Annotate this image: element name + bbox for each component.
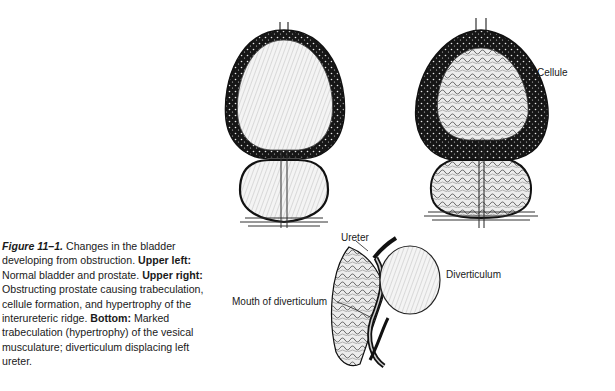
label-diverticulum: Diverticulum	[446, 269, 501, 280]
obstructed-bladder-illustration	[416, 18, 548, 228]
caption-text-upper-left: Normal bladder and prostate.	[2, 269, 139, 281]
caption-heading-upper-left: Upper left:	[138, 254, 191, 266]
figure-caption: Figure 11–1. Changes in the bladder deve…	[2, 239, 217, 369]
diverticulum-illustration	[332, 238, 440, 366]
label-cellule: Cellule	[537, 67, 568, 78]
caption-heading-upper-right: Upper right:	[142, 269, 203, 281]
caption-heading-bottom: Bottom:	[90, 312, 131, 324]
figure-number: Figure 11–1.	[2, 240, 63, 252]
normal-bladder-illustration	[225, 22, 344, 228]
label-mouth-of-diverticulum: Mouth of diverticulum	[232, 296, 327, 307]
label-ureter: Ureter	[341, 232, 369, 243]
